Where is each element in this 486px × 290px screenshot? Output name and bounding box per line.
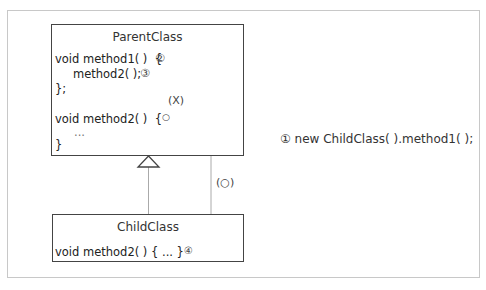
parent-method2-body: ... (74, 125, 85, 139)
parent-method2-close: } (55, 138, 62, 152)
override-target-marker: ○ (162, 112, 170, 122)
parent-class-title: ParentClass (52, 30, 243, 44)
called-label: (○) (216, 176, 234, 189)
child-method2-decl: void method2( ) { ... } (55, 245, 184, 259)
parent-method1-close: }; (55, 82, 66, 96)
parent-method1-decl: void method1( ) { (55, 52, 162, 66)
parent-method2-call: method2( ); (73, 67, 141, 81)
not-called-label: (X) (168, 94, 184, 107)
child-class-title: ChildClass (53, 220, 243, 234)
step2-marker: ② (155, 52, 165, 65)
inheritance-triangle-icon (138, 156, 159, 167)
step3-marker: ③ (140, 67, 150, 80)
call-expression: ① new ChildClass( ).method1( ); (280, 132, 473, 146)
parent-method2-decl: void method2( ) { (55, 112, 162, 126)
step4-marker: ④ (184, 245, 193, 256)
